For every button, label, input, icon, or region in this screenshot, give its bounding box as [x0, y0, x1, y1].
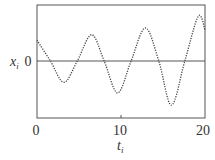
y-axis-label: xi: [9, 54, 19, 71]
y-zero-label: 0: [25, 54, 32, 69]
chart: 0 xi 0 10 20 ti: [0, 0, 215, 160]
x-tick-label-10: 10: [113, 123, 127, 138]
x-tick-label-0: 0: [33, 123, 40, 138]
x-tick-label-20: 20: [196, 123, 210, 138]
series-line: [37, 15, 205, 105]
x-axis-label: ti: [117, 138, 124, 155]
